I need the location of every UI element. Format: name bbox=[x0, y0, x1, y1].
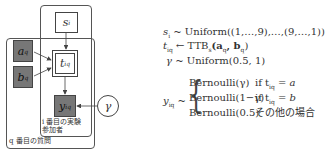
node-a: aq bbox=[13, 40, 33, 62]
node-b: bq bbox=[13, 66, 33, 88]
node-gamma: γ bbox=[97, 95, 119, 117]
node-y: yiq bbox=[54, 95, 76, 117]
case-1: Bernoulli(γ)if tiq = a bbox=[189, 77, 296, 93]
node-t: tiq bbox=[55, 53, 75, 74]
equation-gamma: γ ~ Uniform(0.5, 1) bbox=[166, 55, 265, 67]
case-3: Bernoulli(0.5)その他の場合 bbox=[189, 107, 315, 119]
equation-t: tiq ← TTBs(aq, bq) bbox=[163, 40, 248, 56]
equation-y-lhs: yiq ~ bbox=[163, 95, 186, 111]
node-s: si bbox=[55, 12, 78, 33]
case-2: Bernoulli(1−γ)if tiq = b bbox=[189, 92, 296, 108]
question-plate-label: q 番目の質問 bbox=[9, 137, 51, 145]
participant-plate-label: i 番目の実験 参加者 bbox=[42, 118, 81, 134]
